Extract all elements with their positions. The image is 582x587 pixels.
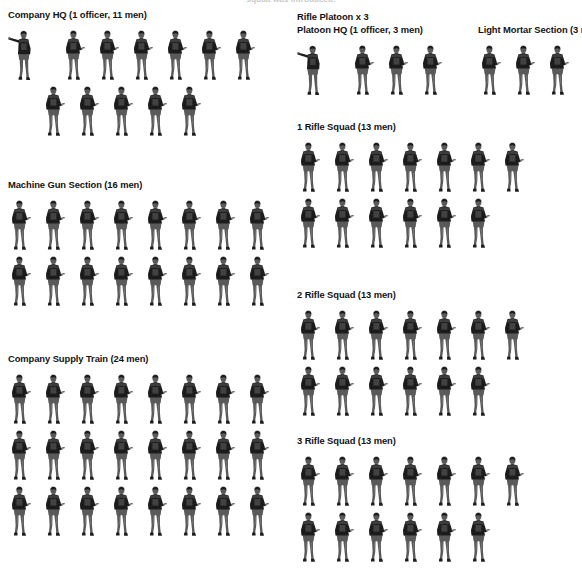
rifleman-figure-icon <box>76 255 100 307</box>
rifleman-figure-icon <box>232 29 256 81</box>
rifleman-figure-icon <box>178 85 202 137</box>
rifleman-figure-icon <box>467 455 491 507</box>
rifleman-figure-icon <box>246 429 270 481</box>
figure-row <box>297 305 535 361</box>
unit-rifle-squad-3: 3 Rifle Squad (13 men) <box>297 434 535 563</box>
rifleman-figure-icon <box>212 429 236 481</box>
rifleman-figure-icon <box>467 141 491 193</box>
rifleman-figure-icon <box>331 197 355 249</box>
figure-row <box>8 195 280 251</box>
rifleman-figure-icon <box>331 365 355 417</box>
figure-row <box>297 361 535 417</box>
rifleman-figure-icon <box>178 373 202 425</box>
rifleman-figure-icon <box>351 44 375 96</box>
rifleman-figure-icon <box>365 197 389 249</box>
rifleman-figure-icon <box>164 29 188 81</box>
rifleman-figure-icon <box>297 197 321 249</box>
unit-title-rifle-squad-3: 3 Rifle Squad (13 men) <box>297 434 535 447</box>
unit-title-rifle-squad-2: 2 Rifle Squad (13 men) <box>297 288 535 301</box>
rifleman-figure-icon <box>96 29 120 81</box>
rifleman-figure-icon <box>297 309 321 361</box>
rifleman-figure-icon <box>365 141 389 193</box>
figure-rows-rifle-squad-3 <box>297 451 535 563</box>
rifleman-figure-icon <box>212 255 236 307</box>
rifleman-figure-icon <box>178 255 202 307</box>
rifleman-figure-icon <box>144 199 168 251</box>
rifleman-figure-icon <box>76 485 100 537</box>
rifleman-figure-icon <box>512 44 536 96</box>
rifleman-figure-icon <box>178 429 202 481</box>
organization-chart-page: squad was introduced. Company HQ (1 offi… <box>0 0 582 587</box>
rifleman-figure-icon <box>62 29 86 81</box>
unit-title-company-hq: Company HQ (1 officer, 11 men) <box>8 8 266 21</box>
rifleman-figure-icon <box>212 485 236 537</box>
rifleman-figure-icon <box>178 485 202 537</box>
unit-light-mortar-section: Light Mortar Section (3 men) <box>478 23 582 96</box>
rifleman-figure-icon <box>246 485 270 537</box>
rifleman-figure-icon <box>297 455 321 507</box>
top-cutoff-caption: squad was introduced. <box>0 0 582 4</box>
unit-title-company-supply-train: Company Supply Train (24 men) <box>8 352 280 365</box>
rifleman-figure-icon <box>8 485 32 537</box>
rifleman-figure-icon <box>246 199 270 251</box>
figure-rows-rifle-squad-1 <box>297 137 535 249</box>
figure-row <box>8 25 266 81</box>
rifleman-figure-icon <box>8 199 32 251</box>
rifleman-figure-icon <box>110 255 134 307</box>
rifleman-figure-icon <box>76 85 100 137</box>
rifleman-figure-icon <box>433 141 457 193</box>
rifleman-figure-icon <box>76 373 100 425</box>
rifleman-figure-icon <box>110 485 134 537</box>
rifleman-figure-icon <box>212 373 236 425</box>
rifleman-figure-icon <box>331 511 355 563</box>
rifleman-figure-icon <box>144 485 168 537</box>
rifleman-figure-icon <box>8 429 32 481</box>
rifleman-figure-icon <box>399 141 423 193</box>
officer-pointing-figure-icon <box>8 29 38 81</box>
rifleman-figure-icon <box>501 309 525 361</box>
unit-rifle-squad-2: 2 Rifle Squad (13 men) <box>297 288 535 417</box>
rifleman-figure-icon <box>433 309 457 361</box>
rifleman-figure-icon <box>365 365 389 417</box>
figure-row <box>8 251 280 307</box>
rifleman-figure-icon <box>467 365 491 417</box>
rifleman-figure-icon <box>399 365 423 417</box>
figure-rows-light-mortar-section <box>478 40 582 96</box>
figure-row <box>297 507 535 563</box>
rifleman-figure-icon <box>331 455 355 507</box>
rifleman-figure-icon <box>110 85 134 137</box>
unit-title-machine-gun-section: Machine Gun Section (16 men) <box>8 178 280 191</box>
rifleman-figure-icon <box>399 197 423 249</box>
rifleman-figure-icon <box>399 511 423 563</box>
figure-row <box>297 40 453 96</box>
rifleman-figure-icon <box>433 365 457 417</box>
rifleman-figure-icon <box>130 29 154 81</box>
rifleman-figure-icon <box>297 365 321 417</box>
rifleman-figure-icon <box>365 455 389 507</box>
figure-row <box>297 193 535 249</box>
rifleman-figure-icon <box>76 429 100 481</box>
rifleman-figure-icon <box>331 309 355 361</box>
figure-rows-rifle-squad-2 <box>297 305 535 417</box>
rifleman-figure-icon <box>8 255 32 307</box>
rifleman-figure-icon <box>144 373 168 425</box>
rifleman-figure-icon <box>385 44 409 96</box>
rifleman-figure-icon <box>467 309 491 361</box>
rifleman-figure-icon <box>198 29 222 81</box>
rifleman-figure-icon <box>433 455 457 507</box>
rifleman-figure-icon <box>467 197 491 249</box>
rifleman-figure-icon <box>399 455 423 507</box>
unit-company-hq: Company HQ (1 officer, 11 men) <box>8 8 266 137</box>
rifleman-figure-icon <box>419 44 443 96</box>
rifleman-figure-icon <box>212 199 236 251</box>
rifleman-figure-icon <box>110 199 134 251</box>
unit-title-platoon-hq: Platoon HQ (1 officer, 3 men) <box>297 23 453 36</box>
unit-title-rifle-squad-1: 1 Rifle Squad (13 men) <box>297 120 535 133</box>
figure-row <box>297 451 535 507</box>
figure-row <box>8 425 280 481</box>
rifleman-figure-icon <box>76 199 100 251</box>
rifleman-figure-icon <box>8 373 32 425</box>
figure-rows-platoon-hq <box>297 40 453 96</box>
rifleman-figure-icon <box>42 85 66 137</box>
rifleman-figure-icon <box>297 141 321 193</box>
